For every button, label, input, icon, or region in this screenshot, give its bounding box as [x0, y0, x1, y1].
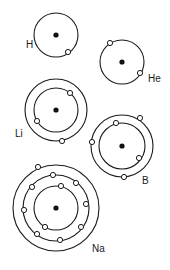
electron — [136, 155, 141, 160]
electron — [137, 70, 142, 75]
electron — [67, 90, 72, 95]
electron — [35, 164, 40, 169]
nucleus — [119, 143, 124, 148]
electron — [29, 184, 34, 189]
electron — [78, 224, 83, 229]
element-label: H — [26, 39, 33, 50]
electron — [89, 139, 94, 144]
atom-na: Na — [13, 164, 105, 254]
atom-li: Li — [15, 79, 87, 144]
electron — [121, 174, 126, 179]
electron — [34, 231, 39, 236]
electron — [65, 49, 70, 54]
element-label: B — [142, 175, 149, 186]
electron — [107, 40, 112, 45]
element-label: He — [148, 73, 161, 84]
atom-he: He — [100, 40, 161, 84]
nucleus — [53, 205, 58, 210]
electron — [42, 224, 47, 229]
atom-h: H — [26, 13, 78, 57]
atom-b: B — [89, 115, 153, 186]
electron — [73, 180, 78, 185]
electron — [59, 138, 64, 143]
electron — [34, 118, 39, 123]
electron — [58, 183, 63, 188]
electron — [137, 115, 142, 120]
electron — [113, 120, 118, 125]
element-label: Na — [92, 243, 105, 254]
element-label: Li — [15, 128, 23, 139]
nucleus — [53, 107, 58, 112]
electron — [83, 201, 88, 206]
electron — [57, 237, 62, 242]
electron — [21, 207, 26, 212]
bohr-model-diagram: HHeLiBNa — [0, 0, 170, 270]
nucleus — [119, 59, 124, 64]
nucleus — [53, 32, 58, 37]
electron — [50, 172, 55, 177]
